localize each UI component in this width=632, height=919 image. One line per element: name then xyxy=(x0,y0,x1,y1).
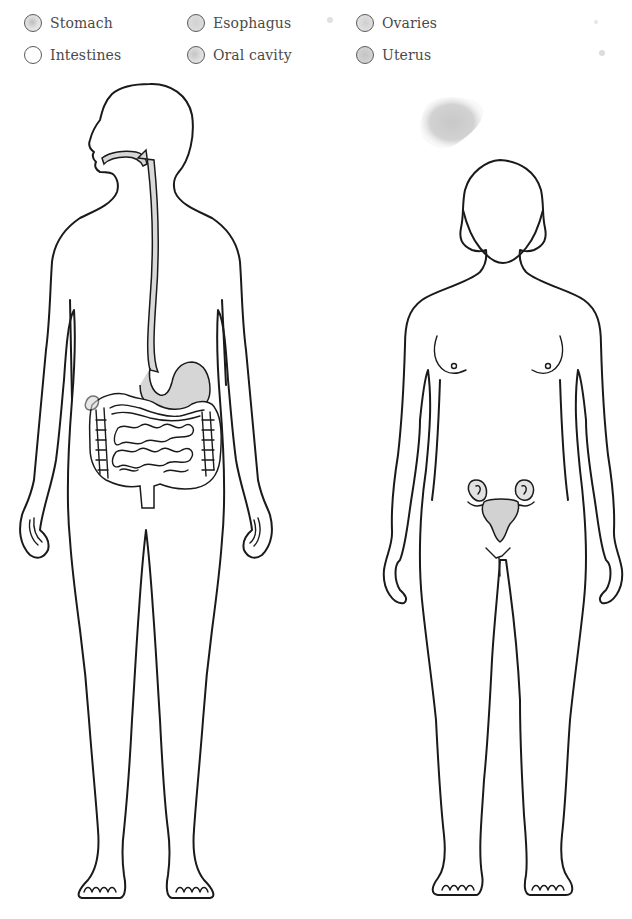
male-right-toes xyxy=(176,888,208,893)
female-face-outline xyxy=(463,210,543,263)
male-left-toes xyxy=(84,888,116,893)
body-diagram xyxy=(0,0,632,919)
female-left-nipple xyxy=(452,364,457,369)
female-right-inner-arm xyxy=(560,380,568,500)
female-right-breast xyxy=(532,336,563,373)
female-right-nipple xyxy=(546,364,551,369)
female-left-inner-arm xyxy=(432,380,440,500)
female-figure xyxy=(384,160,622,895)
male-figure xyxy=(20,84,272,898)
female-right-toes xyxy=(532,886,564,891)
paper-stain xyxy=(327,17,605,148)
intestines[interactable] xyxy=(85,394,221,508)
esophagus[interactable] xyxy=(138,150,158,372)
male-left-fingers xyxy=(29,518,42,545)
female-left-toes xyxy=(442,886,474,891)
female-left-breast xyxy=(434,336,466,373)
uterus[interactable] xyxy=(482,499,518,542)
